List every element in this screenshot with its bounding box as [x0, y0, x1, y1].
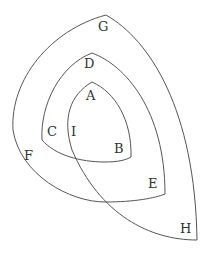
outer-curve-g-h: [68, 15, 197, 240]
inner-curve-a-b: [92, 82, 131, 157]
region-diagram: G D A C I B F E H: [0, 0, 212, 260]
label-e: E: [148, 176, 158, 191]
middle-curve-d-e: [92, 53, 165, 194]
label-b: B: [114, 141, 124, 156]
label-g: G: [98, 19, 108, 34]
label-d: D: [84, 56, 94, 71]
label-a: A: [85, 88, 96, 103]
label-c: C: [47, 124, 57, 139]
outer-curve-g-f-e: [13, 15, 165, 202]
label-f: F: [24, 148, 33, 163]
label-h: H: [180, 221, 191, 236]
label-i: I: [71, 124, 76, 139]
